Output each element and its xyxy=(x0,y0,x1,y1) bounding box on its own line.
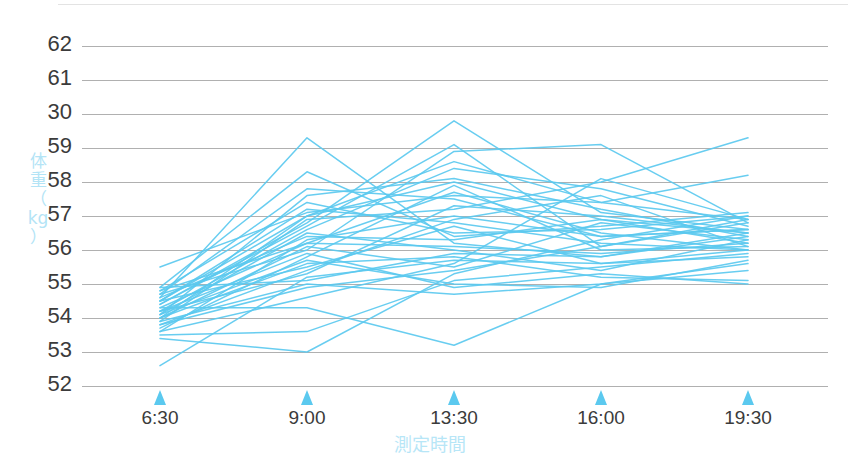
x-tick-marker-group xyxy=(154,390,754,405)
y-tick-label: 55 xyxy=(28,271,72,293)
y-axis-title-char-2: （ xyxy=(20,190,56,209)
data-line xyxy=(160,219,748,324)
y-tick-label: 54 xyxy=(28,305,72,327)
chart-plot-area xyxy=(0,0,860,474)
y-axis-title-char-0: 体 xyxy=(20,152,56,171)
x-tick-marker xyxy=(448,390,460,405)
x-tick-marker xyxy=(154,390,166,405)
x-tick-label: 16:00 xyxy=(556,408,646,428)
x-tick-marker xyxy=(742,390,754,405)
y-tick-label: 62 xyxy=(28,33,72,55)
x-tick-marker xyxy=(595,390,607,405)
x-tick-label: 19:30 xyxy=(703,408,793,428)
weight-line-chart: 6261305958575655545352 6:309:0013:3016:0… xyxy=(0,0,860,474)
y-tick-label: 30 xyxy=(28,101,72,123)
y-axis-title-char-4: ） xyxy=(20,228,56,247)
x-tick-label: 6:30 xyxy=(115,408,205,428)
y-axis-title: 体 重 （ kg ） xyxy=(20,152,56,247)
y-tick-label: 52 xyxy=(28,373,72,395)
data-line-group xyxy=(160,121,748,366)
y-axis-title-char-1: 重 xyxy=(20,171,56,190)
x-tick-label: 13:30 xyxy=(409,408,499,428)
x-tick-marker xyxy=(301,390,313,405)
y-axis-title-char-3: kg xyxy=(20,209,56,228)
y-tick-label: 61 xyxy=(28,67,72,89)
x-axis-title: 測定時間 xyxy=(0,430,860,456)
y-tick-label: 53 xyxy=(28,339,72,361)
x-tick-label: 9:00 xyxy=(262,408,352,428)
